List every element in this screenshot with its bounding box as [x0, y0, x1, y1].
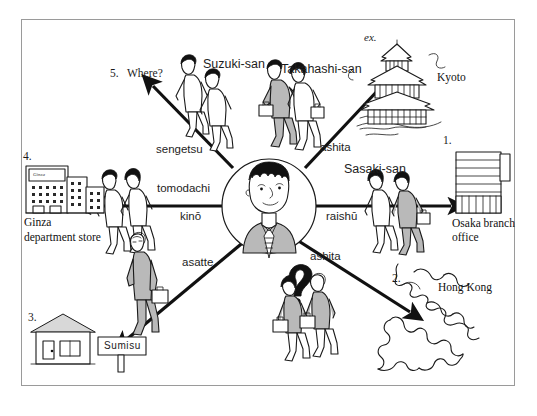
label-where-number: 5.: [110, 67, 119, 79]
label-ex: ex.: [364, 32, 377, 44]
label-osaka-number: 1.: [443, 134, 452, 146]
label-ashita-bottom: ashita: [310, 250, 341, 262]
label-raishu: raishū: [326, 210, 357, 222]
label-osaka-line1: Osaka branch: [452, 217, 515, 229]
label-hongkong-number: 2.: [392, 272, 401, 284]
sasaki-san-figures: [365, 169, 430, 255]
kyoto-temple-icon: [348, 40, 445, 135]
label-ginza-line1: Ginza: [24, 216, 51, 228]
label-kyoto: Kyoto: [437, 71, 466, 83]
label-sengetsu: sengetsu: [156, 143, 203, 155]
label-sumisu-sign: Sumisu: [104, 341, 141, 352]
diagram-artwork: .ink{fill:none;stroke:#1a1a1a;stroke-wid…: [0, 0, 537, 416]
label-ginza-signboard: Ginza: [33, 172, 45, 177]
tomodachi-figures: [97, 168, 155, 254]
label-asatte: asatte: [182, 256, 213, 268]
label-kino: kinō: [180, 210, 201, 222]
diagram-stage: .ink{fill:none;stroke:#1a1a1a;stroke-wid…: [0, 0, 537, 416]
label-ginza-number: 4.: [23, 150, 32, 162]
label-sumisu-number: 3.: [28, 311, 37, 323]
osaka-branch-office-icon: [456, 152, 510, 213]
label-where-text: Where?: [127, 67, 163, 79]
label-tomodachi: tomodachi: [157, 182, 210, 194]
label-ashita-top: ashita: [320, 141, 351, 153]
label-takahashi-san: Takahashi-san: [281, 63, 362, 76]
label-osaka-line2: office: [452, 231, 479, 243]
unknown-companion-figures: [273, 265, 338, 361]
label-sasaki-san: Sasaki-san: [344, 163, 406, 176]
label-suzuki-san: Suzuki-san: [203, 58, 265, 71]
label-hongkong: Hong Kong: [438, 281, 492, 293]
label-ginza-line2: department store: [24, 231, 101, 243]
